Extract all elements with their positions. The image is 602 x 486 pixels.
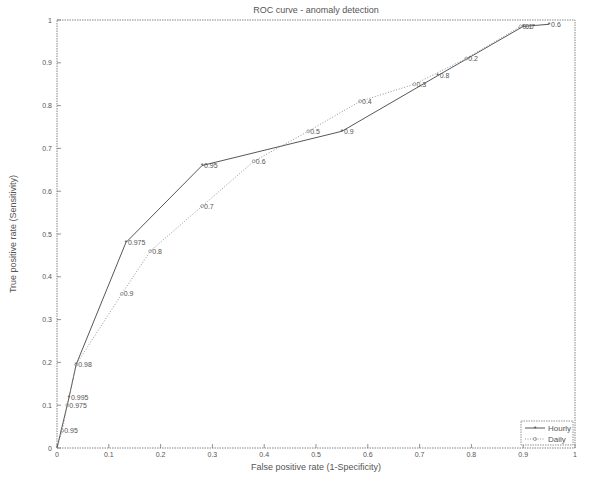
threshold-label: 0.5: [310, 128, 320, 135]
threshold-label: 0.4: [362, 98, 372, 105]
x-tick-label: 0.2: [156, 451, 166, 458]
x-tick-label: 0.3: [208, 451, 218, 458]
threshold-label: 0.995: [71, 394, 89, 401]
y-tick-label: 1: [48, 17, 52, 24]
threshold-label: 0.8: [152, 248, 162, 255]
legend-hourly-label: Hourly: [548, 424, 571, 433]
x-tick-label: 0.1: [104, 451, 114, 458]
y-tick-label: 0.2: [42, 359, 52, 366]
chart-title: ROC curve - anomaly detection: [253, 5, 379, 15]
x-tick-label: 0.6: [363, 451, 373, 458]
threshold-label: 0.95: [64, 427, 78, 434]
threshold-label: 0.8: [440, 72, 450, 79]
x-axis-label: False positive rate (1-Specificity): [251, 462, 381, 472]
y-tick-label: 0.9: [42, 59, 52, 66]
threshold-label: 0.2: [468, 55, 478, 62]
x-tick-label: 0.9: [518, 451, 528, 458]
threshold-label: 0.6: [256, 158, 266, 165]
threshold-label: 0.95: [204, 162, 218, 169]
threshold-label: 0.9: [124, 290, 134, 297]
legend: * Hourly Daily: [521, 421, 573, 445]
threshold-label: 0.6: [551, 21, 561, 28]
threshold-label: 0.3: [416, 81, 426, 88]
y-tick-label: 0.5: [42, 231, 52, 238]
legend-daily-label: Daily: [548, 435, 566, 444]
x-tick-label: 0.8: [467, 451, 477, 458]
legend-hourly-marker-icon: *: [534, 425, 537, 432]
threshold-label: 0.9: [344, 128, 354, 135]
y-tick-label: 0.6: [42, 188, 52, 195]
threshold-label: 0.98: [78, 361, 92, 368]
y-tick-label: 0.8: [42, 102, 52, 109]
x-tick-label: 0.5: [311, 451, 321, 458]
y-tick-label: 0.1: [42, 402, 52, 409]
x-tick-label: 0: [55, 451, 59, 458]
y-tick-label: 0: [48, 445, 52, 452]
threshold-label: 0.975: [69, 402, 87, 409]
threshold-label: 0.975: [128, 239, 146, 246]
threshold-label: 0.7: [204, 203, 214, 210]
x-tick-label: 0.7: [415, 451, 425, 458]
y-tick-label: 0.3: [42, 316, 52, 323]
x-tick-label: 1: [573, 451, 577, 458]
x-tick-label: 0.4: [259, 451, 269, 458]
roc-chart: ROC curve - anomaly detection 00.10.20.3…: [0, 0, 602, 486]
y-tick-label: 0.7: [42, 145, 52, 152]
threshold-label: 0.1: [523, 23, 533, 30]
y-axis-label: True positive rate (Sensitivity): [8, 175, 18, 293]
y-tick-label: 0.4: [42, 273, 52, 280]
